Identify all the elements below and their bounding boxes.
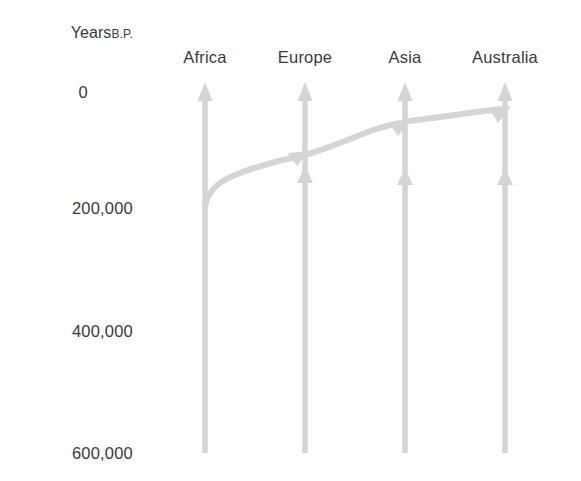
column-arrow-australia bbox=[498, 82, 513, 453]
migration-curve bbox=[205, 109, 500, 207]
column-arrow-asia bbox=[398, 82, 413, 453]
tick-label-200000: 200,000 bbox=[0, 199, 133, 218]
tick-label-0: 0 bbox=[0, 83, 88, 102]
tick-label-600000: 600,000 bbox=[0, 444, 133, 463]
arrival-marker-australia-icon bbox=[497, 168, 513, 185]
column-label-australia: Australia bbox=[445, 48, 565, 67]
tick-label-400000: 400,000 bbox=[0, 322, 133, 341]
axis-title-suffix: B.P. bbox=[111, 27, 133, 41]
axis-title: YearsB.P. bbox=[0, 24, 133, 42]
arrival-marker-europe-icon bbox=[297, 166, 313, 183]
column-arrow-africa bbox=[198, 82, 213, 453]
chart-canvas bbox=[0, 0, 581, 481]
axis-title-main: Years bbox=[71, 24, 112, 41]
migration-timeline-figure: YearsB.P. 0 200,000 400,000 600,000 Afri… bbox=[0, 0, 581, 481]
column-arrow-europe bbox=[298, 82, 313, 453]
arrival-marker-asia-icon bbox=[397, 168, 413, 185]
